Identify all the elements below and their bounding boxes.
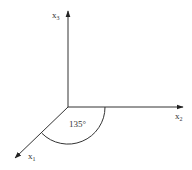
angle-label: 135° (69, 119, 87, 129)
x2-label: x2 (175, 111, 183, 122)
x1-axis (15, 107, 68, 158)
coordinate-axes-diagram: x3 x2 x1 135° (0, 0, 192, 170)
x1-label: x1 (28, 151, 36, 162)
x3-label: x3 (52, 10, 60, 21)
